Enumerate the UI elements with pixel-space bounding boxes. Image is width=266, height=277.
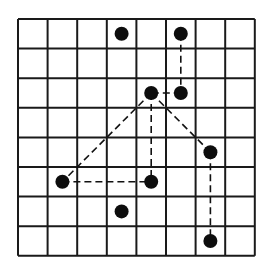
dot <box>203 234 217 248</box>
dashed-segment <box>151 93 210 152</box>
dot <box>115 204 129 218</box>
grid-lines <box>18 19 255 256</box>
grid-diagram-canvas <box>0 0 266 277</box>
dot <box>203 145 217 159</box>
dot <box>55 175 69 189</box>
dot <box>174 86 188 100</box>
dot <box>115 27 129 41</box>
dot <box>144 86 158 100</box>
grid-diagram <box>0 0 266 277</box>
dot <box>174 27 188 41</box>
dot <box>144 175 158 189</box>
